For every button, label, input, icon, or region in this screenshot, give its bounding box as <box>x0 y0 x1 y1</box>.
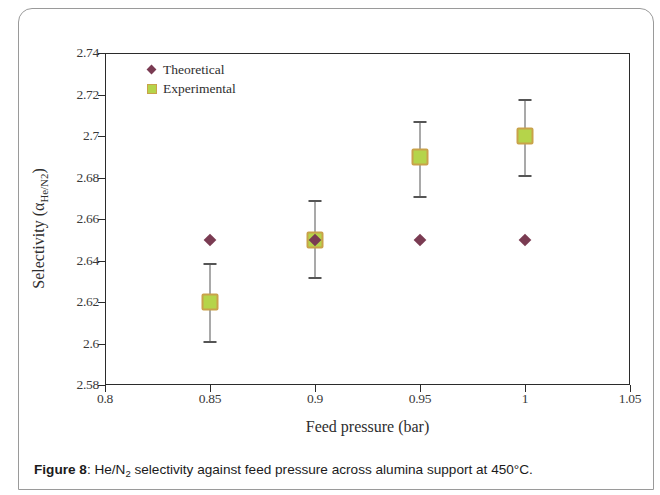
y-axis-title: Selectivity (αHe/N2) <box>30 129 49 329</box>
x-axis-tick-label: 0.85 <box>199 391 221 407</box>
y-axis-tick-label: 2.72 <box>39 87 99 103</box>
legend-label-experimental: Experimental <box>160 81 236 97</box>
diamond-marker-icon <box>143 66 160 73</box>
y-axis-title-subscript: He/N2 <box>38 174 50 203</box>
y-axis-tick-mark <box>98 261 105 262</box>
legend-item-theoretical: Theoretical <box>143 60 236 79</box>
y-axis-tick-mark <box>98 344 105 345</box>
error-bar-cap <box>519 99 532 101</box>
y-axis-tick-label: 2.6 <box>39 336 99 352</box>
figure-caption: Figure 8: He/N2 selectivity against feed… <box>34 462 654 479</box>
error-bar-cap <box>204 341 217 343</box>
y-axis-tick-mark <box>98 178 105 179</box>
y-axis-tick-mark <box>98 53 105 54</box>
error-bar-cap <box>414 121 427 123</box>
y-axis-tick-mark <box>98 219 105 220</box>
x-axis-tick-mark <box>315 385 316 392</box>
error-bar-cap <box>204 263 217 265</box>
x-axis-tick-label: 1.05 <box>619 391 641 407</box>
x-axis-tick-mark <box>525 385 526 392</box>
y-axis-tick-label: 2.74 <box>39 45 99 61</box>
caption-text-before: He/N <box>94 462 125 477</box>
x-axis-tick-label: 1 <box>522 391 528 407</box>
x-axis-title: Feed pressure (bar) <box>105 418 630 436</box>
y-axis-tick-mark <box>98 385 105 386</box>
y-axis-title-main: Selectivity (α <box>30 203 47 289</box>
legend-item-experimental: Experimental <box>143 79 236 98</box>
experimental-data-point <box>517 128 534 145</box>
plot-frame <box>105 53 630 385</box>
legend-label-theoretical: Theoretical <box>160 62 224 78</box>
experimental-data-point <box>202 294 219 311</box>
y-axis-tick-mark <box>98 302 105 303</box>
y-axis-tick-mark <box>98 95 105 96</box>
x-axis-tick-mark <box>105 385 106 392</box>
square-marker-icon <box>143 84 160 94</box>
error-bar-cap <box>309 277 322 279</box>
x-axis-tick-mark <box>210 385 211 392</box>
x-axis-tick-label: 0.9 <box>307 391 323 407</box>
error-bar-cap <box>519 175 532 177</box>
error-bar-cap <box>309 200 322 202</box>
chart-legend: Theoretical Experimental <box>143 60 236 98</box>
chart-plot-region: 2.582.62.622.642.662.682.72.722.74 0.80.… <box>0 0 660 450</box>
x-axis-tick-label: 0.8 <box>97 391 113 407</box>
x-axis-tick-mark <box>420 385 421 392</box>
figure-number: Figure 8 <box>34 462 87 477</box>
y-axis-tick-label: 2.58 <box>39 377 99 393</box>
y-axis-title-close: ) <box>30 168 47 173</box>
y-axis-tick-mark <box>98 136 105 137</box>
x-axis-tick-label: 0.95 <box>409 391 431 407</box>
error-bar-cap <box>414 196 427 198</box>
experimental-data-point <box>412 148 429 165</box>
x-axis-tick-mark <box>630 385 631 392</box>
caption-text-after: selectivity against feed pressure across… <box>131 462 533 477</box>
